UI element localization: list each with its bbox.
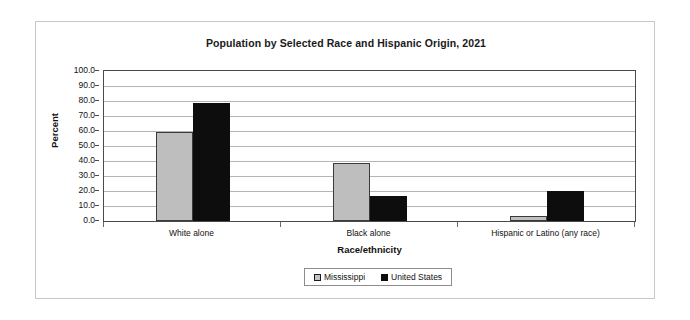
y-axis-tick-mark bbox=[95, 145, 99, 146]
bar-united-states bbox=[370, 196, 407, 221]
x-axis-title: Race/ethnicity bbox=[103, 244, 636, 255]
y-axis-tick-mark bbox=[95, 115, 99, 116]
chart-title: Population by Selected Race and Hispanic… bbox=[36, 37, 656, 49]
bar-united-states bbox=[547, 191, 584, 221]
chart-legend: MississippiUnited States bbox=[304, 268, 452, 286]
bar-group bbox=[510, 71, 584, 221]
x-axis-tick-mark bbox=[103, 222, 104, 227]
x-axis-tick-label: Black alone bbox=[347, 228, 391, 238]
y-axis-tick-mark bbox=[95, 85, 99, 86]
x-axis-tick-mark bbox=[280, 222, 281, 227]
y-axis-tick-mark bbox=[95, 190, 99, 191]
y-axis-tick-mark bbox=[95, 160, 99, 161]
y-axis-tick-mark bbox=[95, 70, 99, 71]
x-axis-tick-label: White alone bbox=[169, 228, 214, 238]
legend-label: Mississippi bbox=[324, 272, 365, 282]
plot-area bbox=[103, 70, 636, 222]
legend-entry: Mississippi bbox=[314, 272, 365, 282]
x-axis-tick-mark bbox=[634, 222, 635, 227]
bar-group bbox=[333, 71, 407, 221]
bar-united-states bbox=[193, 103, 230, 222]
y-axis-tick-mark bbox=[95, 220, 99, 221]
legend-swatch-icon bbox=[381, 274, 388, 281]
bar-group bbox=[156, 71, 230, 221]
chart-figure: Population by Selected Race and Hispanic… bbox=[35, 21, 655, 299]
y-axis-tick-label: 40.0 bbox=[78, 155, 95, 165]
y-axis-tick-label: 20.0 bbox=[78, 185, 95, 195]
y-axis-tick-label: 10.0 bbox=[78, 200, 95, 210]
y-axis-tick-label: 60.0 bbox=[78, 125, 95, 135]
legend-entry: United States bbox=[381, 272, 442, 282]
y-axis-tick-label: 70.0 bbox=[78, 110, 95, 120]
bar-mississippi bbox=[156, 132, 193, 221]
y-axis-tick-label: 50.0 bbox=[78, 140, 95, 150]
y-axis-tick-label: 80.0 bbox=[78, 95, 95, 105]
y-axis-tick-label: 30.0 bbox=[78, 170, 95, 180]
bar-mississippi bbox=[510, 216, 547, 221]
x-axis-tick-label: Hispanic or Latino (any race) bbox=[491, 228, 600, 238]
y-axis-tick-mark bbox=[95, 175, 99, 176]
y-axis-tick-label: 90.0 bbox=[78, 80, 95, 90]
y-axis-tick-label: 100.0 bbox=[74, 65, 95, 75]
legend-label: United States bbox=[391, 272, 442, 282]
y-axis-tick-mark bbox=[95, 205, 99, 206]
y-axis-tick-labels: 100.090.080.070.060.050.040.030.020.010.… bbox=[56, 70, 99, 222]
bar-mississippi bbox=[333, 163, 370, 221]
y-axis-tick-mark bbox=[95, 130, 99, 131]
x-axis-tick-mark bbox=[457, 222, 458, 227]
y-axis-tick-mark bbox=[95, 100, 99, 101]
legend-swatch-icon bbox=[314, 274, 321, 281]
y-axis-tick-label: 0.0 bbox=[83, 215, 95, 225]
